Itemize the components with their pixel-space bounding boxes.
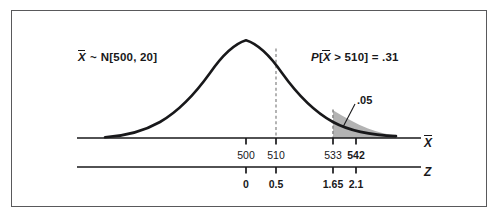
probability-symbol: P <box>311 51 319 63</box>
z-axis-name: Z <box>424 166 431 178</box>
tail-area-label: .05 <box>357 95 372 106</box>
distribution-mean: 500 <box>113 51 133 63</box>
x-tick-label-542: 542 <box>347 150 365 161</box>
equals-sign: = <box>368 51 382 63</box>
distribution-sd: 20 <box>140 51 153 63</box>
probability-statement: P[X > 510] = .31 <box>311 52 399 64</box>
distribution-notation: X~N[500, 20] <box>78 52 157 64</box>
probability-value: .31 <box>382 51 399 63</box>
x-bar-symbol-prob: X <box>323 52 331 64</box>
x-axis-name-symbol: X <box>424 137 432 149</box>
normal-distribution-figure: X~N[500, 20] P[X > 510] = .31 .05 500 51… <box>0 0 502 215</box>
z-tick-label-0-5: 0.5 <box>269 179 284 190</box>
probability-threshold: 510 <box>345 51 365 63</box>
x-axis-name: X <box>424 137 432 149</box>
z-tick-label-2-1: 2.1 <box>349 179 364 190</box>
x-bar-symbol: X <box>78 52 86 64</box>
x-tick-label-533: 533 <box>324 150 342 161</box>
z-tick-label-1-65: 1.65 <box>323 179 343 190</box>
x-tick-label-510: 510 <box>267 150 285 161</box>
greater-than-operator: > <box>331 51 345 63</box>
params-close-bracket: ] <box>153 51 157 63</box>
x-tick-label-500: 500 <box>237 150 255 161</box>
distribution-plot <box>0 0 502 215</box>
tilde-relation: ~ <box>86 51 101 63</box>
params-separator: , <box>133 51 140 63</box>
z-tick-label-0: 0 <box>243 179 249 190</box>
